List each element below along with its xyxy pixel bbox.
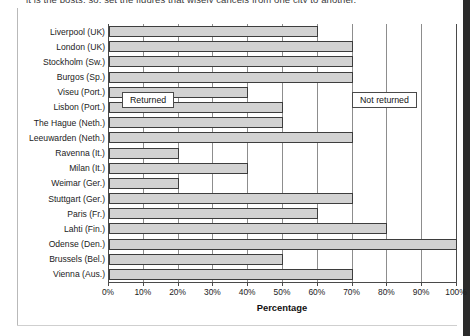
bar-row (109, 269, 457, 280)
bar-segment-returned (109, 26, 318, 37)
bar-segment-returned (109, 208, 318, 219)
x-tick-label: 70% (343, 286, 360, 298)
stacked-bar-chart: Liverpool (UK)London (UK)Stockholm (Sw.)… (0, 0, 475, 336)
category-axis-labels: Liverpool (UK)London (UK)Stockholm (Sw.)… (8, 24, 105, 282)
bar-row (109, 254, 457, 265)
bar-row (109, 178, 457, 189)
bar-segment-returned (109, 117, 283, 128)
category-label: Lahti (Fin.) (8, 224, 105, 234)
bar-segment-returned (109, 254, 283, 265)
category-label: Liverpool (UK) (8, 27, 105, 37)
x-tick-label: 80% (378, 286, 395, 298)
legend-label-returned: Returned (122, 92, 174, 108)
category-label: Lisbon (Port.) (8, 102, 105, 112)
bar-segment-returned (109, 178, 179, 189)
x-tick-label: 30% (204, 286, 221, 298)
bar-segment-returned (109, 193, 353, 204)
category-label: Milan (It.) (8, 163, 105, 173)
category-label: Paris (Fr.) (8, 209, 105, 219)
category-label: Vienna (Aus.) (8, 269, 105, 279)
x-tick-label: 60% (308, 286, 325, 298)
bar-row (109, 41, 457, 52)
bar-row (109, 117, 457, 128)
category-label: Ravenna (It.) (8, 148, 105, 158)
bar-row (109, 72, 457, 83)
bar-row (109, 193, 457, 204)
bar-segment-returned (109, 223, 387, 234)
x-axis-title: Percentage (108, 302, 456, 313)
x-tick-label: 100% (445, 286, 466, 298)
bar-row (109, 239, 457, 250)
bar-segment-returned (109, 239, 457, 250)
category-label: Brussels (Bel.) (8, 254, 105, 264)
bar-segment-returned (109, 132, 353, 143)
x-tick-label: 10% (134, 286, 151, 298)
x-tick-label: 50% (274, 286, 291, 298)
category-label: Weimar (Ger.) (8, 178, 105, 188)
bar-row (109, 163, 457, 174)
bar-row (109, 56, 457, 67)
plot-area (108, 24, 457, 283)
category-label: Viseu (Port.) (8, 87, 105, 97)
bar-segment-returned (109, 148, 179, 159)
bar-segment-returned (109, 163, 248, 174)
legend-label-not-returned: Not returned (352, 92, 417, 108)
bar-segment-returned (109, 72, 353, 83)
x-tick-label: 0% (102, 286, 114, 298)
x-tick-label: 90% (413, 286, 430, 298)
category-label: Odense (Den.) (8, 239, 105, 249)
category-label: Leeuwarden (Neth.) (8, 133, 105, 143)
bar-row (109, 132, 457, 143)
x-tick-label: 20% (169, 286, 186, 298)
x-tick-label: 40% (239, 286, 256, 298)
category-label: The Hague (Neth.) (8, 118, 105, 128)
bar-segment-returned (109, 41, 353, 52)
bar-row (109, 208, 457, 219)
category-label: Stuttgart (Ger.) (8, 194, 105, 204)
category-label: London (UK) (8, 42, 105, 52)
category-label: Burgos (Sp.) (8, 72, 105, 82)
bar-segment-returned (109, 56, 353, 67)
bar-row (109, 26, 457, 37)
bar-segment-returned (109, 269, 353, 280)
bar-row (109, 148, 457, 159)
bar-row (109, 223, 457, 234)
x-axis-tick-labels: 0%10%20%30%40%50%60%70%80%90%100% (108, 286, 456, 298)
category-label: Stockholm (Sw.) (8, 57, 105, 67)
